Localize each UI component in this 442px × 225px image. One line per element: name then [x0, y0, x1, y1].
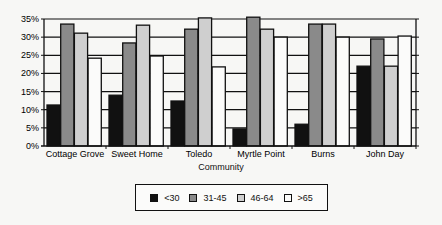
bar-chart: 0%5%10%15%20%25%30%35%Cottage GroveSweet… [0, 0, 442, 160]
bar [233, 129, 246, 146]
bar [398, 36, 411, 146]
x-tick-label: Myrtle Point [237, 149, 285, 159]
bar [47, 105, 60, 146]
bar [198, 18, 211, 146]
x-tick-label: Cottage Grove [46, 149, 105, 159]
y-tick-label: 15% [21, 87, 39, 97]
x-tick-label: John Day [366, 149, 405, 159]
y-tick-label: 0% [26, 141, 39, 151]
legend-swatch [189, 194, 197, 202]
bar [74, 33, 87, 146]
bar [123, 43, 136, 146]
legend-item: 46-64 [237, 193, 274, 203]
bar [136, 25, 149, 146]
legend-item: >65 [284, 193, 313, 203]
legend-label: 31-45 [203, 193, 226, 203]
bar [295, 124, 308, 146]
bar [260, 29, 273, 146]
bar [88, 58, 101, 146]
y-tick-label: 25% [21, 50, 39, 60]
bar [322, 24, 335, 146]
x-tick-label: Burns [311, 149, 335, 159]
legend-item: 31-45 [189, 193, 226, 203]
legend: <3031-4546-64>65 [135, 184, 328, 211]
bar [247, 17, 260, 146]
bar [371, 39, 384, 146]
legend-swatch [237, 194, 245, 202]
x-tick-label: Sweet Home [111, 149, 163, 159]
legend-swatch [150, 194, 158, 202]
bar [212, 67, 225, 146]
bar [185, 29, 198, 146]
legend-swatch [284, 194, 292, 202]
x-axis-label: Community [0, 162, 442, 172]
x-tick-label: Toledo [186, 149, 213, 159]
y-tick-label: 30% [21, 32, 39, 42]
bar [309, 24, 322, 146]
legend-item: <30 [150, 193, 179, 203]
legend-label: >65 [298, 193, 313, 203]
bar [336, 37, 349, 146]
bar [384, 66, 397, 146]
bar [150, 56, 163, 146]
bar [109, 95, 122, 146]
y-tick-label: 5% [26, 123, 39, 133]
bar [171, 101, 184, 146]
legend-label: <30 [164, 193, 179, 203]
legend-label: 46-64 [251, 193, 274, 203]
y-tick-label: 35% [21, 14, 39, 24]
y-tick-label: 10% [21, 105, 39, 115]
y-tick-label: 20% [21, 68, 39, 78]
bar [357, 66, 370, 146]
bar [274, 37, 287, 146]
bar [61, 24, 74, 146]
